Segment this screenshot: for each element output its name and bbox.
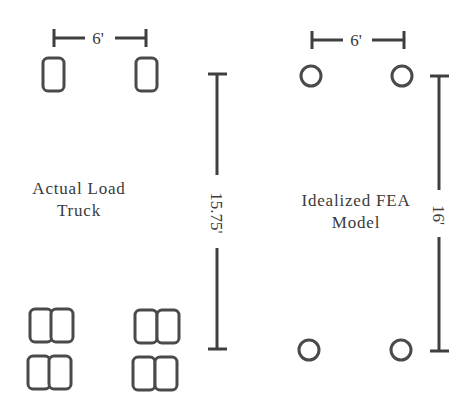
truck-load-diagram: 6' 15.75' Actual Load Truck [0,0,475,411]
idealized-fea-model-label-line2: Model [332,213,380,232]
idealized-fea-model-label-line1: Idealized FEA [301,191,410,210]
left-axle-width-label: 6' [92,29,104,48]
right-axle-width-dimension: 6' [312,31,404,50]
idealized-fea-model-panel: 6' 16' Idealized FEA Model [299,31,449,360]
front-tire-right [136,58,157,91]
right-wheelbase-dimension: 16' [429,76,449,351]
point-load-rear-right [391,340,411,360]
rear-tire [28,356,50,389]
actual-load-truck-panel: 6' 15.75' Actual Load Truck [28,29,227,390]
point-load-front-right [392,66,412,86]
right-axle-width-label: 6' [350,31,362,50]
rear-tire [51,309,73,342]
actual-load-truck-label-line1: Actual Load [32,179,125,198]
rear-tire [30,309,52,342]
rear-tire [49,356,71,389]
left-wheelbase-label: 15.75' [207,192,226,233]
right-wheelbase-label: 16' [429,205,448,225]
rear-tire [135,310,157,343]
left-wheelbase-dimension: 15.75' [207,74,227,349]
left-axle-width-dimension: 6' [54,29,146,48]
rear-tire [157,310,179,343]
front-tire-left [43,58,64,91]
point-load-rear-left [299,340,319,360]
rear-axle-1-tires [30,309,179,343]
rear-tire [155,357,177,390]
point-load-front-left [301,66,321,86]
rear-tire [133,357,155,390]
rear-axle-2-tires [28,356,177,390]
actual-load-truck-label-line2: Truck [57,201,101,220]
